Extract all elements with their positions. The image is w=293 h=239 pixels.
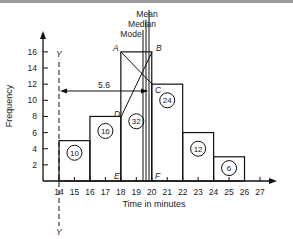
x-tick-label: 26: [240, 187, 250, 197]
y-tick-label: 12: [28, 79, 38, 89]
y-tick-label: 16: [28, 47, 38, 57]
area-label: 16: [101, 127, 110, 136]
y-axis-label: Frequency: [4, 84, 14, 127]
x-tick-label: 16: [85, 187, 95, 197]
point-b-label: B: [156, 43, 162, 53]
x-tick-label: 24: [209, 187, 219, 197]
y-ticks: 246810121416: [28, 47, 48, 170]
y-tick-label: 10: [28, 95, 38, 105]
dashed-line-label-bottom: Y: [56, 227, 63, 237]
point-c-label: C: [155, 85, 162, 95]
mean-label: Mean: [136, 9, 158, 19]
median-label: Median: [128, 19, 156, 29]
histogram-chart: 246810121416 141516171819202122232425262…: [0, 0, 293, 239]
x-tick-label: 23: [193, 187, 203, 197]
area-label: 32: [132, 117, 141, 126]
point-f-label: F: [155, 171, 161, 181]
distance-label: 5.6: [98, 80, 110, 90]
point-a-label: A: [112, 43, 119, 53]
area-label: 6: [227, 164, 232, 173]
arrow-left-icon: [60, 89, 67, 94]
arrow-right-icon: [141, 89, 148, 94]
x-tick-label: 18: [116, 187, 126, 197]
y-tick-label: 2: [32, 160, 37, 170]
area-label: 12: [194, 145, 203, 154]
x-tick-label: 21: [162, 187, 172, 197]
x-tick-label: 20: [147, 187, 157, 197]
mode-label: Mode: [120, 29, 142, 39]
area-label: 24: [163, 96, 172, 105]
histogram-bar: [183, 133, 214, 181]
x-axis-label: Time in minutes: [122, 199, 186, 209]
y-axis-arrow-icon: [40, 31, 46, 39]
x-axis-arrow-icon: [269, 178, 277, 184]
x-tick-label: 19: [132, 187, 142, 197]
point-e-label: E: [114, 171, 120, 181]
y-tick-label: 4: [32, 144, 37, 154]
diagonal-a-c: [121, 52, 152, 84]
dashed-line-label-top: Y: [56, 49, 63, 59]
x-tick-label: 15: [70, 187, 80, 197]
y-tick-label: 6: [32, 128, 37, 138]
diagonal-b-d: [121, 52, 152, 117]
y-tick-label: 14: [28, 63, 38, 73]
x-tick-label: 22: [178, 187, 188, 197]
y-tick-label: 8: [32, 111, 37, 121]
area-label: 10: [70, 149, 79, 158]
x-tick-label: 25: [224, 187, 234, 197]
x-tick-label: 17: [101, 187, 111, 197]
x-tick-label: 27: [255, 187, 265, 197]
point-d-label: D: [114, 109, 120, 119]
histogram-bars: 10163224126: [59, 52, 245, 181]
